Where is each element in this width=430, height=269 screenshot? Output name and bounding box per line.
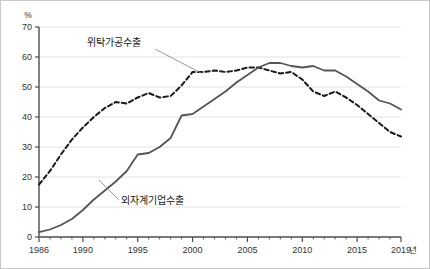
y-tick-label: 50 [22,82,32,92]
x-axis-unit-label: 년 [409,245,417,255]
x-tick-label: 1986 [29,245,49,255]
y-tick-label: 30 [22,142,32,152]
series-line-1 [39,68,401,185]
chart-figure: 010203040506070 198619901995200020052010… [0,0,430,269]
x-tick-label: 2000 [183,245,203,255]
x-tick-label: 2010 [292,245,312,255]
x-tick-label: 2015 [347,245,367,255]
x-tick-label: 1995 [128,245,148,255]
y-tick-label: 70 [22,22,32,32]
x-tick-label: 2005 [237,245,257,255]
line-chart: 010203040506070 198619901995200020052010… [1,1,430,269]
axes [39,27,401,237]
y-tick-label: 10 [22,202,32,212]
y-axis-unit-label: % [24,10,32,20]
y-tick-label: 60 [22,52,32,62]
series-annotation-label-1: 위탁가공수출 [87,36,141,48]
y-tick-label: 0 [27,232,32,242]
y-axis-tick-labels: 010203040506070 [22,22,32,242]
series-annotation-label-2: 외자계기업수출 [121,194,184,206]
y-tick-label: 40 [22,112,32,122]
annotation-leader-line [99,180,119,200]
x-tick-label: 2019 [391,245,411,255]
annotation-leader-line [155,49,201,73]
annotations-group: 위탁가공수출외자계기업수출 [87,36,201,206]
x-tick-label: 1990 [73,245,93,255]
x-axis-tick-labels: 19861990199520002005201020152019 [29,245,411,255]
x-axis-ticks [39,237,401,242]
y-tick-label: 20 [22,172,32,182]
